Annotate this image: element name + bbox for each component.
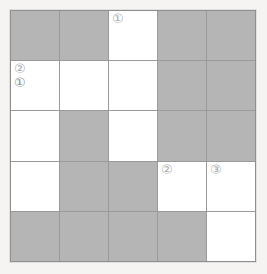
grid-cell-r2-c2[interactable]	[60, 61, 108, 110]
grid-cell-r1-c1[interactable]	[11, 11, 59, 60]
grid-cell-r1-c2[interactable]	[60, 11, 108, 60]
grid-cell-r1-c5[interactable]	[207, 11, 255, 60]
grid-cell-r2-c4[interactable]	[158, 61, 206, 110]
puzzle-grid: ①②①②③	[10, 10, 256, 262]
grid-cell-r1-c4[interactable]	[158, 11, 206, 60]
grid-cell-r5-c4[interactable]	[158, 212, 206, 261]
grid-cell-r4-c1[interactable]	[11, 162, 59, 211]
grid-cell-r4-c2[interactable]	[60, 162, 108, 211]
grid-cell-r2-c3[interactable]	[109, 61, 157, 110]
grid-cell-r5-c1[interactable]	[11, 212, 59, 261]
cell-marks: ②①	[14, 62, 26, 90]
grid-cell-r4-c5[interactable]: ③	[207, 162, 255, 211]
grid-cell-r3-c2[interactable]	[60, 111, 108, 160]
grid-cell-r3-c5[interactable]	[207, 111, 255, 160]
circled-number-mark: ①	[112, 12, 124, 25]
grid-cell-r3-c4[interactable]	[158, 111, 206, 160]
cell-marks: ②	[161, 163, 173, 177]
circled-number-mark: ②	[14, 62, 26, 75]
circled-number-mark: ①	[14, 76, 26, 89]
cell-marks: ①	[112, 12, 124, 26]
grid-cell-r3-c3[interactable]	[109, 111, 157, 160]
grid-cell-r2-c5[interactable]	[207, 61, 255, 110]
grid-cell-r1-c3[interactable]: ①	[109, 11, 157, 60]
cell-marks: ③	[210, 163, 222, 177]
grid-cell-r5-c3[interactable]	[109, 212, 157, 261]
circled-number-mark: ②	[161, 163, 173, 176]
grid-cell-r5-c5[interactable]	[207, 212, 255, 261]
grid-cell-r2-c1[interactable]: ②①	[11, 61, 59, 110]
grid-cell-r5-c2[interactable]	[60, 212, 108, 261]
grid-cell-r3-c1[interactable]	[11, 111, 59, 160]
grid-cell-r4-c4[interactable]: ②	[158, 162, 206, 211]
circled-number-mark: ③	[210, 163, 222, 176]
grid-cell-r4-c3[interactable]	[109, 162, 157, 211]
